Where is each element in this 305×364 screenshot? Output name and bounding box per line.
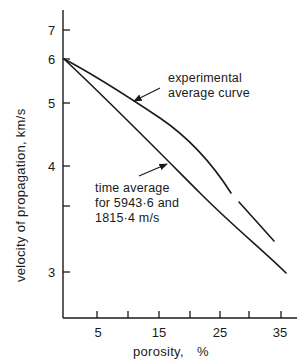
experimental-annotation: experimental average curve (168, 71, 250, 100)
time-average-annotation-line: time average (95, 181, 170, 195)
time-average-annotation-line: for 5943·6 and (95, 196, 179, 210)
x-ticks (97, 311, 281, 318)
experimental-arrow (134, 88, 160, 101)
y-tick-label: 4 (48, 159, 55, 174)
y-tick-label: 6 (48, 52, 55, 67)
y-tick-label: 5 (48, 96, 55, 111)
time-average-annotation: time average for 5943·6 and 1815·4 m/s (95, 181, 179, 225)
velocity-porosity-chart: 7 6 5 4 3 5 15 25 35 porosity, % velocit… (0, 0, 305, 364)
y-tick-labels: 7 6 5 4 3 (48, 23, 55, 280)
y-tick-label: 3 (48, 265, 55, 280)
x-tick-label: 35 (273, 325, 287, 340)
x-tick-label: 15 (152, 325, 166, 340)
x-axis-title: porosity, (133, 344, 184, 359)
time-average-arrow (139, 164, 167, 176)
x-tick-labels: 5 15 25 35 (94, 325, 287, 340)
y-ticks (63, 30, 70, 272)
experimental-annotation-line: average curve (168, 86, 250, 100)
x-tick-label: 25 (213, 325, 227, 340)
x-axis-title-unit: % (197, 344, 209, 359)
x-tick-label: 5 (94, 325, 101, 340)
y-axis-title: velocity of propagation, km/s (13, 108, 28, 282)
experimental-annotation-line: experimental (168, 71, 242, 85)
time-average-annotation-line: 1815·4 m/s (95, 211, 160, 225)
y-tick-label: 7 (48, 23, 55, 38)
axes (63, 10, 297, 318)
